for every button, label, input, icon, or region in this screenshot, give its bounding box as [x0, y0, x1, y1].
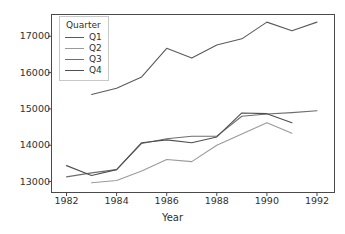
legend-label: Q4: [89, 66, 102, 75]
y-tick-label: 16000: [6, 68, 50, 78]
x-tick-label: 1990: [247, 196, 287, 206]
legend-label: Q1: [89, 33, 102, 42]
legend-entries: Q1Q2Q3Q4: [65, 32, 102, 76]
x-tick-label: 1992: [297, 196, 337, 206]
series-line-q4: [67, 113, 292, 175]
x-tick-label: 1984: [97, 196, 137, 206]
series-line-q1: [92, 22, 317, 94]
y-tick-label: 13000: [6, 177, 50, 187]
legend-line-swatch-q4: [65, 70, 84, 71]
legend-title: Quarter: [65, 20, 102, 30]
legend-line-swatch-q2: [65, 48, 84, 49]
legend-entry-q2: Q2: [65, 43, 102, 54]
legend-label: Q3: [89, 55, 102, 64]
figure: 1300014000150001600017000 19821984198619…: [0, 0, 345, 234]
y-tick-label: 17000: [6, 31, 50, 41]
legend-label: Q2: [89, 44, 102, 53]
y-tick-label: 15000: [6, 104, 50, 114]
legend-entry-q3: Q3: [65, 54, 102, 65]
legend-entry-q4: Q4: [65, 65, 102, 76]
legend-entry-q1: Q1: [65, 32, 102, 43]
x-axis-label: Year: [0, 212, 345, 223]
x-tick-label: 1986: [147, 196, 187, 206]
legend-line-swatch-q1: [65, 37, 84, 38]
series-line-q3: [67, 111, 317, 177]
legend-line-swatch-q3: [65, 59, 84, 60]
x-tick-label: 1982: [47, 196, 87, 206]
y-tick-label: 14000: [6, 140, 50, 150]
x-tick-label: 1988: [197, 196, 237, 206]
series-line-q2: [92, 123, 292, 183]
legend: Quarter Q1Q2Q3Q4: [59, 16, 109, 81]
